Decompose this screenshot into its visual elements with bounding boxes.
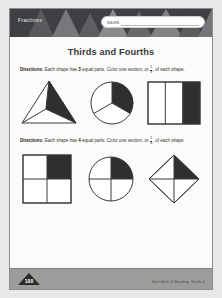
parts-count-2: 4: [78, 139, 81, 144]
shape-circle-fourths[interactable]: [86, 152, 136, 206]
shape-rectangle-thirds[interactable]: [146, 78, 202, 128]
name-field-rule: [121, 25, 199, 26]
worksheet-footer: 100 Total Math & Reading, Grade 2: [10, 268, 212, 289]
worksheet-page: Fractions NAME Thirds and Fourths Direct…: [9, 8, 213, 290]
directions-text-2c: , of each shape.: [153, 139, 185, 144]
footer-credit: Total Math & Reading, Grade 2: [151, 280, 205, 284]
svg-text:100: 100: [25, 278, 34, 284]
directions-lead-2: Directions:: [20, 139, 44, 144]
directions-text-1a: Each shape has: [45, 67, 77, 72]
directions-lead-1: Directions:: [20, 67, 44, 72]
directions-text-1b: equal parts. Color one section, or: [82, 67, 148, 72]
directions-text-1c: , of each shape.: [153, 67, 185, 72]
subject-label: Fractions: [18, 18, 42, 23]
directions-text-2a: Each shape has: [45, 139, 77, 144]
parts-count-1: 3: [78, 67, 81, 72]
name-field-label: NAME: [107, 20, 120, 25]
page-title: Thirds and Fourths: [20, 47, 202, 57]
shape-row-thirds: [20, 78, 202, 128]
shape-row-fourths: [20, 152, 202, 206]
directions-text-2b: equal parts. Color one section, or: [82, 139, 148, 144]
directions-thirds: Directions: Each shape has 3 equal parts…: [20, 66, 202, 74]
publisher-logo-icon: 100: [17, 272, 41, 286]
directions-fourths: Directions: Each shape has 4 equal parts…: [20, 137, 202, 145]
shape-diamond-fourths[interactable]: [146, 152, 202, 206]
worksheet-body: Thirds and Fourths Directions: Each shap…: [10, 47, 212, 206]
name-field[interactable]: NAME: [101, 16, 205, 28]
shape-square-fourths[interactable]: [20, 152, 76, 206]
shape-triangle-thirds[interactable]: [20, 78, 78, 128]
worksheet-header: Fractions NAME: [10, 9, 212, 37]
shape-circle-thirds[interactable]: [88, 78, 136, 128]
